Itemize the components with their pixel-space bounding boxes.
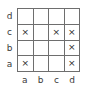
- cell-mark: ×: [68, 59, 76, 68]
- grid-cell[interactable]: ×: [18, 25, 34, 41]
- grid-cell[interactable]: [49, 56, 65, 72]
- grid-cell[interactable]: [18, 9, 34, 25]
- grid-cell[interactable]: [34, 9, 50, 25]
- row-label-b: b: [3, 40, 16, 56]
- row-label-d: d: [3, 8, 16, 24]
- grid-cell[interactable]: [34, 56, 50, 72]
- grid-diagram: d c b a × × × × × × a b c d: [0, 0, 90, 90]
- col-label-d: d: [64, 73, 80, 87]
- grid-cell[interactable]: ×: [65, 56, 81, 72]
- cell-mark: ×: [52, 28, 60, 37]
- grid-cell[interactable]: [34, 25, 50, 41]
- grid-cell[interactable]: [18, 41, 34, 57]
- cell-mark: ×: [68, 28, 76, 37]
- col-label-b: b: [33, 73, 49, 87]
- grid-cell[interactable]: ×: [18, 56, 34, 72]
- grid-cell[interactable]: ×: [65, 41, 81, 57]
- row-label-axis: d c b a: [3, 8, 16, 72]
- grid-cell[interactable]: [34, 41, 50, 57]
- cell-mark: ×: [21, 59, 29, 68]
- grid-cell[interactable]: ×: [65, 25, 81, 41]
- grid-cell[interactable]: [49, 41, 65, 57]
- cell-mark: ×: [68, 43, 76, 52]
- col-label-c: c: [49, 73, 65, 87]
- grid-cell[interactable]: [65, 9, 81, 25]
- column-label-axis: a b c d: [17, 73, 80, 87]
- row-label-a: a: [3, 56, 16, 72]
- cell-grid: × × × × × ×: [17, 8, 80, 72]
- row-label-c: c: [3, 24, 16, 40]
- col-label-a: a: [17, 73, 33, 87]
- cell-mark: ×: [21, 28, 29, 37]
- grid-cell[interactable]: [49, 9, 65, 25]
- grid-cell[interactable]: ×: [49, 25, 65, 41]
